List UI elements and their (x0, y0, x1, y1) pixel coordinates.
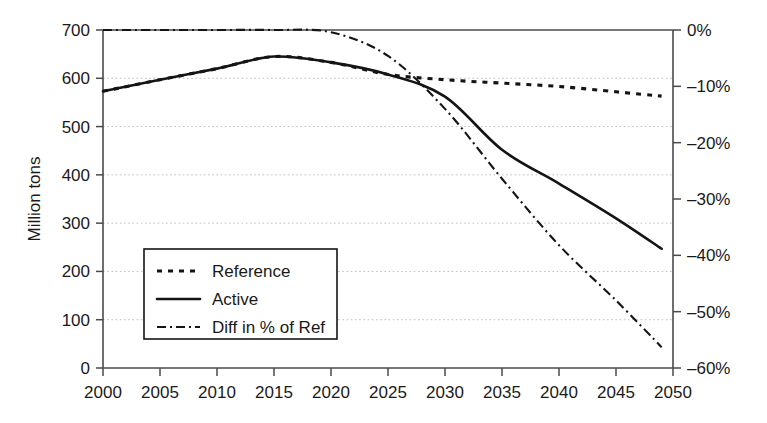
x-axis-tick-label: 2045 (597, 383, 635, 402)
x-axis-tick-label: 2050 (654, 383, 692, 402)
y-axis-left-tick-label: 0 (81, 359, 90, 378)
legend-label: Reference (212, 262, 290, 281)
legend-label: Diff in % of Ref (212, 318, 325, 337)
x-axis-tick-label: 2010 (198, 383, 236, 402)
y-axis-right-tick-label: 0% (687, 21, 712, 40)
y-axis-right-tick-label: –30% (687, 190, 730, 209)
legend-label: Active (212, 290, 258, 309)
y-axis-left-tick-label: 300 (62, 214, 90, 233)
x-axis-tick-label: 2015 (255, 383, 293, 402)
series-line-active (103, 56, 662, 248)
x-axis-tick-label: 2035 (483, 383, 521, 402)
y-axis-right-tick-label: –20% (687, 134, 730, 153)
x-axis-tick-label: 2030 (426, 383, 464, 402)
x-axis-tick-label: 2005 (141, 383, 179, 402)
x-axis-tick-label: 2020 (312, 383, 350, 402)
y-axis-left-tick-label: 200 (62, 262, 90, 281)
y-axis-right-tick-label: –50% (687, 303, 730, 322)
y-axis-left-tick-label: 500 (62, 118, 90, 137)
y-axis-left-tick-label: 100 (62, 311, 90, 330)
y-axis-right-tick-label: –60% (687, 359, 730, 378)
x-axis-tick-label: 2025 (369, 383, 407, 402)
chart-container: 01002003004005006007000%–10%–20%–30%–40%… (0, 0, 767, 423)
y-axis-right-tick-label: –10% (687, 77, 730, 96)
y-axis-left-tick-label: 600 (62, 69, 90, 88)
x-axis-tick-label: 2040 (540, 383, 578, 402)
y-axis-right-tick-label: –40% (687, 246, 730, 265)
series-line-reference (103, 56, 662, 96)
y-axis-left-tick-label: 400 (62, 166, 90, 185)
line-chart: 01002003004005006007000%–10%–20%–30%–40%… (0, 0, 767, 423)
x-axis-tick-label: 2000 (84, 383, 122, 402)
y-axis-left-tick-label: 700 (62, 21, 90, 40)
y-axis-title: Million tons (25, 156, 44, 241)
